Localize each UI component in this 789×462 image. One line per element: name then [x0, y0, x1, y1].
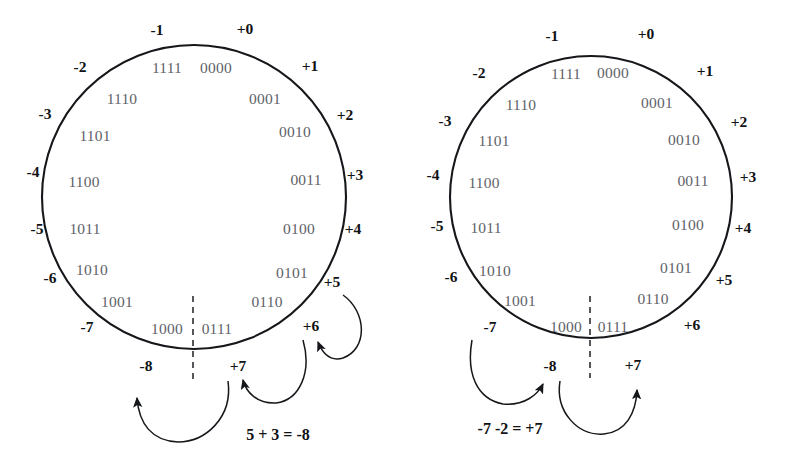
- binary-label: 1000: [151, 320, 183, 337]
- equation-caption: 5 + 3 = -8: [246, 426, 310, 443]
- binary-labels: 0000 0001 0010 0011 0100 0101 0110 0111 …: [468, 64, 708, 335]
- decimal-label: -5: [431, 217, 444, 234]
- binary-label: 0100: [283, 220, 315, 237]
- binary-label: 0110: [637, 290, 668, 307]
- binary-label: 0011: [677, 172, 708, 189]
- decimal-label: +0: [237, 20, 254, 37]
- binary-label: 1001: [101, 293, 133, 310]
- step-arrow-5-to-6: [318, 295, 361, 359]
- decimal-label: -7: [81, 318, 94, 335]
- decimal-label: -1: [151, 21, 164, 38]
- decimal-label: +7: [625, 356, 642, 373]
- step-arrow-m8-to-7: [559, 381, 637, 434]
- binary-label: 0111: [598, 318, 629, 335]
- binary-label: 0011: [290, 171, 321, 188]
- binary-label: 0100: [672, 216, 704, 233]
- binary-label: 0001: [249, 90, 281, 107]
- decimal-label: -4: [27, 163, 40, 180]
- decimal-label: -5: [31, 220, 44, 237]
- decimal-label: +3: [740, 168, 757, 185]
- decimal-label: +4: [735, 219, 752, 236]
- decimal-label: -6: [445, 268, 458, 285]
- decimal-labels: +0 +1 +2 +3 +4 +5 +6 +7 -8 -7 -6 -5 -4 -…: [27, 20, 364, 374]
- binary-label: 0101: [660, 259, 692, 276]
- binary-label: 0110: [251, 293, 282, 310]
- decimal-label: -8: [544, 357, 557, 374]
- decimal-label: -4: [427, 166, 440, 183]
- step-arrow-6-to-7: [243, 340, 306, 403]
- step-arrow-7-to-m8: [137, 381, 229, 442]
- decimal-label: -3: [439, 112, 452, 129]
- subtraction-overflow-wheel: 0000 0001 0010 0011 0100 0101 0110 0111 …: [427, 25, 757, 437]
- decimal-label: +6: [303, 317, 320, 334]
- binary-label: 1110: [107, 90, 138, 107]
- binary-label: 1100: [68, 173, 99, 190]
- wheel-circle: [450, 56, 732, 338]
- binary-label: 1001: [504, 292, 536, 309]
- binary-label: 0001: [641, 94, 673, 111]
- step-arrow-m7-to-m8: [470, 340, 543, 404]
- decimal-label: +6: [684, 316, 701, 333]
- binary-label: 1010: [479, 262, 511, 279]
- decimal-label: +2: [731, 113, 748, 130]
- equation-caption: -7 -2 = +7: [478, 420, 543, 437]
- decimal-label: +1: [302, 57, 319, 74]
- decimal-label: +4: [345, 220, 362, 237]
- figure-canvas: 0000 0001 0010 0011 0100 0101 0110 0111 …: [0, 0, 789, 462]
- binary-label: 0010: [279, 123, 311, 140]
- decimal-labels: +0 +1 +2 +3 +4 +5 +6 +7 -8 -7 -6 -5 -4 -…: [427, 25, 757, 374]
- decimal-label: -3: [39, 105, 52, 122]
- decimal-label: +7: [230, 357, 247, 374]
- binary-label: 1111: [152, 59, 182, 76]
- binary-label: 1011: [470, 219, 501, 236]
- wheel-circle: [42, 45, 346, 349]
- decimal-label: +1: [697, 62, 714, 79]
- decimal-label: -8: [140, 357, 153, 374]
- decimal-label: -2: [74, 58, 87, 75]
- binary-label: 0010: [668, 131, 700, 148]
- binary-label: 1100: [468, 174, 499, 191]
- binary-label: 1101: [79, 127, 110, 144]
- binary-label: 1010: [76, 261, 108, 278]
- decimal-label: +2: [337, 106, 354, 123]
- decimal-label: -2: [473, 64, 486, 81]
- addition-overflow-wheel: 0000 0001 0010 0011 0100 0101 0110 0111 …: [27, 20, 364, 443]
- binary-label: 1111: [551, 65, 581, 82]
- decimal-label: +0: [638, 25, 655, 42]
- decimal-label: -1: [546, 27, 559, 44]
- step-arrows: [137, 295, 361, 442]
- decimal-label: +5: [324, 273, 341, 290]
- binary-label: 0111: [202, 320, 233, 337]
- binary-label: 1011: [69, 220, 100, 237]
- decimal-label: -6: [44, 269, 57, 286]
- binary-label: 1000: [550, 318, 582, 335]
- binary-labels: 0000 0001 0010 0011 0100 0101 0110 0111 …: [68, 59, 321, 337]
- binary-label: 0000: [597, 64, 629, 81]
- binary-label: 0101: [276, 264, 308, 281]
- number-wheel-figure: 0000 0001 0010 0011 0100 0101 0110 0111 …: [0, 0, 789, 462]
- binary-label: 1110: [506, 96, 537, 113]
- binary-label: 1101: [478, 132, 509, 149]
- decimal-label: +5: [716, 271, 733, 288]
- decimal-label: -7: [484, 318, 497, 335]
- decimal-label: +3: [347, 166, 364, 183]
- binary-label: 0000: [200, 59, 232, 76]
